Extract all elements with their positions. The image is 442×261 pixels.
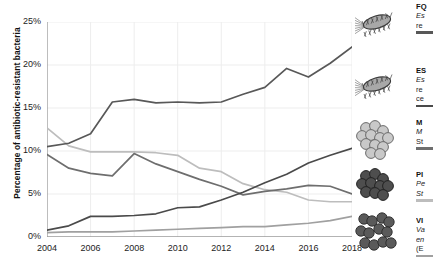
x-tick-label: 2004 <box>29 243 65 253</box>
y-tick-label: 0% <box>7 231 41 241</box>
y-tick-label: 5% <box>7 188 41 198</box>
legend-color-swatch <box>416 147 433 149</box>
legend-item-sub: Es <box>416 11 442 20</box>
cocci-cluster-light-icon <box>352 120 392 160</box>
series-line-mrsa <box>47 154 352 195</box>
legend-text: ESEsrece <box>416 66 442 107</box>
legend-item-sub: en <box>416 235 442 244</box>
series-line-esbl <box>47 148 352 230</box>
legend-item-name: M <box>416 118 442 127</box>
y-tick-label: 20% <box>7 59 41 69</box>
chart-svg <box>47 22 352 237</box>
legend-item-sub: Pe <box>416 179 442 188</box>
x-tick-label: 2008 <box>116 243 152 253</box>
x-tick-label: 2012 <box>203 243 239 253</box>
legend-item-name: FQ <box>416 2 442 11</box>
legend-item-name: PI <box>416 170 442 179</box>
legend-item-sub: ce <box>416 94 442 103</box>
legend-color-swatch <box>416 105 433 107</box>
series-line-vre <box>47 216 352 232</box>
rod-bacterium-flagella-icon <box>352 8 392 48</box>
chart-figure: Percentage of antibiotic-resistant bacte… <box>0 0 442 261</box>
legend-item-sub: Es <box>416 75 442 84</box>
legend-text: PIPeSt <box>416 170 442 202</box>
legend-item-sub: St <box>416 189 442 198</box>
legend-item-sub: M <box>416 127 442 136</box>
y-tick-label: 15% <box>7 102 41 112</box>
legend-item-name: ES <box>416 66 442 75</box>
legend-color-swatch <box>416 31 433 33</box>
legend-item-sub: (E <box>416 244 442 253</box>
legend-item-sub: re <box>416 21 442 30</box>
legend-text: MMSt <box>416 118 442 150</box>
x-tick-label: 2010 <box>160 243 196 253</box>
legend-color-swatch <box>416 199 433 201</box>
y-tick-label: 10% <box>7 145 41 155</box>
legend-color-swatch <box>416 255 433 257</box>
series-line-fqre <box>47 47 352 147</box>
cocci-pairs-dark-icon <box>352 212 392 252</box>
cocci-cluster-dark-icon <box>352 168 392 208</box>
x-tick-label: 2006 <box>73 243 109 253</box>
x-tick-label: 2016 <box>290 243 326 253</box>
legend-text: VIVaen(E <box>416 216 442 257</box>
legend-item-sub: St <box>416 137 442 146</box>
legend-item-sub: Va <box>416 225 442 234</box>
plot-area <box>47 22 352 237</box>
x-tick-label: 2014 <box>247 243 283 253</box>
legend-item-name: VI <box>416 216 442 225</box>
chart-legend: FQEsreESEsreceMMStPIPeStVIVaen(E <box>352 0 442 261</box>
rod-bacterium-flagella-icon <box>352 70 392 110</box>
y-tick-label: 25% <box>7 16 41 26</box>
legend-item-sub: re <box>416 85 442 94</box>
legend-text: FQEsre <box>416 2 442 34</box>
